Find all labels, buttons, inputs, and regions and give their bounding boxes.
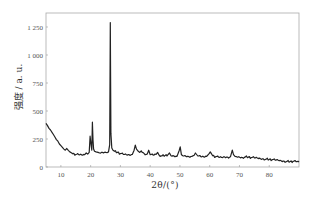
- y-axis-title-text: 强度 / a. u.: [13, 64, 24, 111]
- y-tick-label: 250: [33, 136, 44, 144]
- xrd-chart: 02505007501 0001 250 1020304050607080: [0, 0, 311, 203]
- y-tick-label: 1 250: [27, 24, 43, 32]
- y-tick-label: 1 000: [27, 52, 43, 60]
- x-axis-title: 2θ/(°): [138, 180, 192, 194]
- y-axis-title: 强度 / a. u.: [4, 62, 32, 112]
- x-tick-label: 60: [206, 171, 214, 179]
- x-tick-label: 80: [266, 171, 274, 179]
- x-tick-label: 20: [87, 171, 95, 179]
- y-tick-label: 0: [40, 164, 44, 172]
- x-tick-label: 50: [176, 171, 184, 179]
- plot-frame: [46, 13, 299, 167]
- y-tick-label: 750: [33, 80, 44, 88]
- x-tick-label: 30: [117, 171, 125, 179]
- x-tick-label: 10: [57, 171, 65, 179]
- x-tick-label: 40: [147, 171, 155, 179]
- x-tick-label: 70: [236, 171, 244, 179]
- y-tick-label: 500: [33, 108, 44, 116]
